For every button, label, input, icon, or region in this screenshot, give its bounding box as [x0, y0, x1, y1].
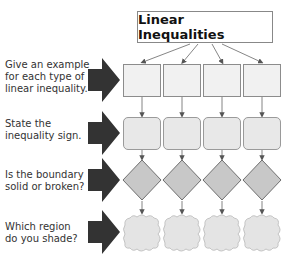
label-line: do you shade?: [5, 233, 78, 245]
region-cloud-4[interactable]: [242, 213, 282, 253]
big-arrow-icon: [86, 156, 122, 204]
boundary-diamond-3[interactable]: [202, 159, 242, 201]
label-line: linear inequality.: [5, 83, 89, 95]
label-line: State the: [5, 118, 82, 130]
boundary-diamond-2[interactable]: [162, 159, 202, 201]
row-label-sign: State the inequality sign.: [5, 118, 82, 142]
example-box-3[interactable]: [203, 64, 241, 97]
sign-box-1[interactable]: [123, 117, 161, 150]
label-line: Is the boundary: [5, 169, 84, 181]
sign-box-2[interactable]: [163, 117, 201, 150]
example-box-2[interactable]: [163, 64, 201, 97]
big-arrow-icon: [86, 208, 122, 256]
region-cloud-1[interactable]: [122, 213, 162, 253]
boundary-diamond-4[interactable]: [242, 159, 282, 201]
label-line: for each type of: [5, 71, 89, 83]
label-line: Give an example: [5, 59, 89, 71]
row-label-example: Give an example for each type of linear …: [5, 59, 89, 95]
example-box-1[interactable]: [123, 64, 161, 97]
label-line: inequality sign.: [5, 130, 82, 142]
label-line: Which region: [5, 221, 78, 233]
row-label-boundary: Is the boundary solid or broken?: [5, 169, 84, 193]
big-arrow-icon: [86, 56, 122, 104]
big-arrow-icon: [86, 109, 122, 157]
region-cloud-3[interactable]: [202, 213, 242, 253]
sign-box-4[interactable]: [243, 117, 281, 150]
region-cloud-2[interactable]: [162, 213, 202, 253]
example-box-4[interactable]: [243, 64, 281, 97]
row-label-region: Which region do you shade?: [5, 221, 78, 245]
sign-box-3[interactable]: [203, 117, 241, 150]
boundary-diamond-1[interactable]: [122, 159, 162, 201]
label-line: solid or broken?: [5, 181, 84, 193]
